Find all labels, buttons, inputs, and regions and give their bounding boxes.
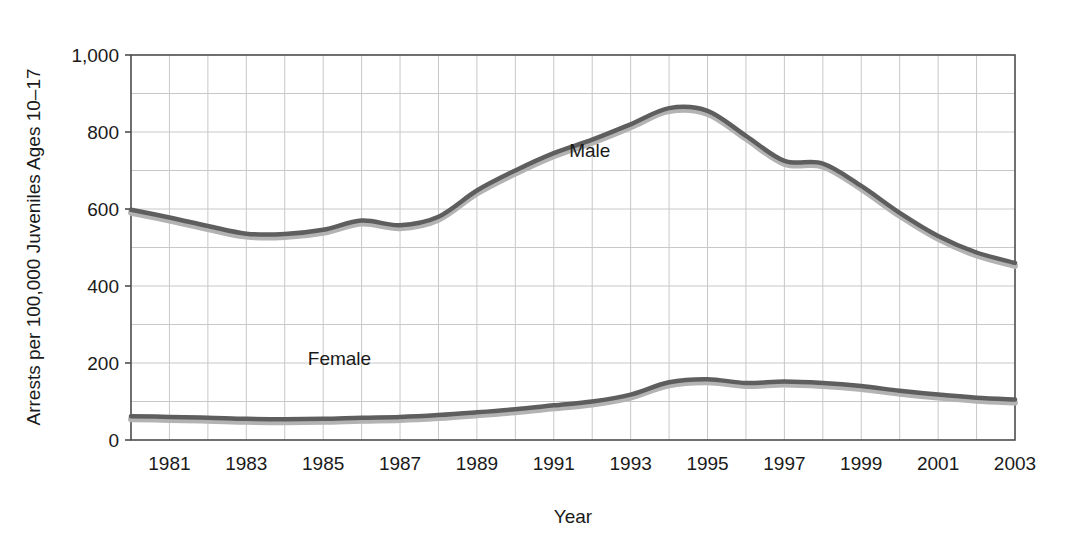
x-tick-label: 1999: [840, 453, 882, 474]
x-tick-label: 1983: [225, 453, 267, 474]
x-tick-label: 1987: [379, 453, 421, 474]
line-chart: 02004006008001,0001981198319851987198919…: [0, 0, 1083, 557]
chart-page: 02004006008001,0001981198319851987198919…: [0, 0, 1083, 557]
y-tick-label: 200: [87, 353, 119, 374]
y-axis-title: Arrests per 100,000 Juveniles Ages 10–17: [23, 68, 44, 425]
y-tick-label: 1,000: [71, 45, 119, 66]
x-tick-label: 2003: [994, 453, 1036, 474]
x-tick-label: 1997: [763, 453, 805, 474]
series-label-male: Male: [569, 140, 610, 161]
y-tick-label: 400: [87, 276, 119, 297]
x-tick-label: 1989: [456, 453, 498, 474]
x-tick-label: 1993: [610, 453, 652, 474]
y-tick-label: 0: [108, 430, 119, 451]
x-tick-label: 2001: [917, 453, 959, 474]
y-tick-label: 600: [87, 199, 119, 220]
x-tick-label: 1995: [686, 453, 728, 474]
x-axis-title: Year: [554, 506, 593, 527]
x-tick-label: 1981: [148, 453, 190, 474]
x-tick-label: 1991: [533, 453, 575, 474]
series-label-female: Female: [308, 348, 371, 369]
x-tick-label: 1985: [302, 453, 344, 474]
y-tick-label: 800: [87, 122, 119, 143]
